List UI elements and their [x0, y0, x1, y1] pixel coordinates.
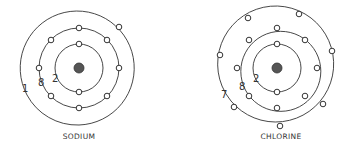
electron — [274, 41, 280, 47]
chlorine-atom: 2 8 7 CHLORINE — [217, 6, 335, 141]
chlorine-label: CHLORINE — [261, 132, 302, 141]
chlorine-shell-3-count: 7 — [221, 89, 227, 100]
electron — [48, 37, 54, 43]
sodium-shell-3-count: 1 — [22, 83, 28, 94]
electron — [76, 105, 82, 111]
electron — [329, 48, 335, 54]
sodium-atom: 2 8 1 SODIUM — [20, 11, 134, 141]
electron — [104, 37, 110, 43]
electron — [48, 93, 54, 99]
electron — [296, 11, 302, 17]
atom-diagram: 2 8 1 SODIUM 2 8 — [0, 0, 355, 152]
sodium-nucleus — [74, 63, 84, 73]
electron — [274, 105, 280, 111]
chlorine-shell-2-count: 8 — [239, 81, 245, 92]
electron — [76, 25, 82, 31]
electron — [320, 101, 326, 107]
electron — [36, 65, 42, 71]
electron — [246, 93, 252, 99]
electron — [116, 24, 122, 30]
electron — [231, 104, 237, 110]
sodium-shell-2-count: 8 — [38, 77, 44, 88]
electron — [246, 37, 252, 43]
chlorine-nucleus — [272, 63, 282, 73]
electron — [76, 89, 82, 95]
electron — [302, 93, 308, 99]
electron — [274, 25, 280, 31]
electron — [274, 89, 280, 95]
electron — [277, 123, 283, 129]
electron — [217, 52, 223, 58]
electron — [116, 65, 122, 71]
electron — [314, 65, 320, 71]
chlorine-shell-1-count: 2 — [253, 73, 259, 84]
sodium-shell-1-count: 2 — [52, 73, 58, 84]
electron — [302, 37, 308, 43]
electron — [245, 15, 251, 21]
sodium-label: SODIUM — [63, 132, 95, 141]
electron — [234, 65, 240, 71]
electron — [104, 93, 110, 99]
electron — [76, 41, 82, 47]
